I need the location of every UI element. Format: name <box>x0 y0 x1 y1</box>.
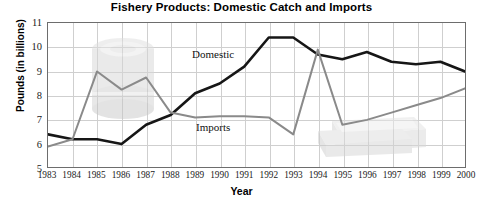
x-axis-tick-label: 1985 <box>87 170 106 180</box>
plot-area <box>47 22 466 168</box>
y-axis-tick-label: 8 <box>20 90 42 101</box>
data-series-layer <box>48 23 465 168</box>
series-label-imports: Imports <box>196 121 230 133</box>
x-axis-tick-label: 1987 <box>136 170 155 180</box>
x-axis-tick-label: 1999 <box>432 170 451 180</box>
series-label-domestic: Domestic <box>192 48 234 60</box>
y-axis-tick-label: 7 <box>20 114 42 125</box>
x-axis-title: Year <box>0 185 483 197</box>
x-axis-tick-label: 1990 <box>210 170 229 180</box>
x-axis-tick-label: 1992 <box>260 170 279 180</box>
y-axis-tick-label: 10 <box>20 41 42 52</box>
x-axis-tick-label: 1995 <box>333 170 352 180</box>
x-axis-tick-label: 1988 <box>161 170 180 180</box>
x-axis-tick-label: 1986 <box>112 170 131 180</box>
series-line-imports <box>48 50 465 147</box>
x-axis-tick-label: 1996 <box>358 170 377 180</box>
chart-title: Fishery Products: Domestic Catch and Imp… <box>0 1 483 13</box>
chart-figure: Fishery Products: Domestic Catch and Imp… <box>0 0 483 204</box>
x-axis-tick-labels: 1983198419851986198719881989199019911992… <box>47 170 466 184</box>
x-axis-tick-label: 1998 <box>407 170 426 180</box>
x-axis-tick-label: 1997 <box>383 170 402 180</box>
y-axis-tick-label: 6 <box>20 138 42 149</box>
x-axis-tick-label: 2000 <box>457 170 476 180</box>
x-axis-tick-label: 1984 <box>62 170 81 180</box>
y-axis-tick-label: 9 <box>20 65 42 76</box>
x-axis-tick-label: 1993 <box>284 170 303 180</box>
x-axis-tick-label: 1989 <box>186 170 205 180</box>
y-axis-tick-label: 11 <box>20 17 42 28</box>
x-axis-tick-label: 1991 <box>235 170 254 180</box>
series-line-domestic <box>48 38 465 145</box>
x-axis-tick-label: 1994 <box>309 170 328 180</box>
x-axis-tick-label: 1983 <box>38 170 57 180</box>
